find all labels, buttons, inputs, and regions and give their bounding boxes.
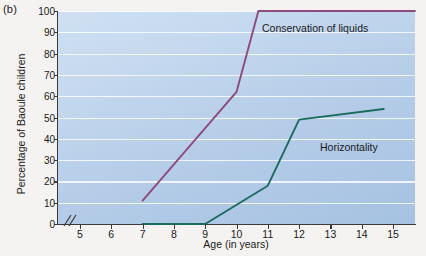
gridline xyxy=(58,54,415,55)
gridline xyxy=(58,75,415,76)
x-tick-label: 13 xyxy=(318,228,342,240)
x-tick-mark xyxy=(80,224,81,229)
x-tick-label: 6 xyxy=(99,228,123,240)
y-tick-mark xyxy=(54,139,58,140)
gridline xyxy=(58,11,415,12)
gridline xyxy=(58,139,415,140)
y-tick-mark xyxy=(54,75,58,76)
x-tick-mark xyxy=(330,224,331,229)
x-tick-mark xyxy=(174,224,175,229)
x-tick-label: 5 xyxy=(68,228,92,240)
x-tick-label: 12 xyxy=(287,228,311,240)
figure-panel: (b) Percentage of Baoule children Age (i… xyxy=(0,0,426,256)
y-tick-label: 50 xyxy=(15,112,55,123)
gridline xyxy=(58,181,415,182)
x-tick-mark xyxy=(237,224,238,229)
y-tick-mark xyxy=(54,181,58,182)
x-tick-label: 7 xyxy=(131,228,155,240)
series-label-horizontality: Horizontality xyxy=(320,141,378,153)
y-tick-mark xyxy=(54,54,58,55)
y-tick-label: 40 xyxy=(15,133,55,144)
axis-break-icon xyxy=(62,214,80,228)
x-tick-label: 11 xyxy=(256,228,280,240)
x-tick-mark xyxy=(205,224,206,229)
y-tick-label: 80 xyxy=(15,48,55,59)
x-tick-label: 10 xyxy=(225,228,249,240)
x-tick-label: 9 xyxy=(193,228,217,240)
y-tick-mark xyxy=(54,11,58,12)
y-tick-label: 90 xyxy=(15,27,55,38)
x-tick-mark xyxy=(143,224,144,229)
y-tick-label: 70 xyxy=(15,69,55,80)
y-tick-label: 10 xyxy=(15,197,55,208)
y-tick-label: 20 xyxy=(15,176,55,187)
y-tick-mark xyxy=(54,203,58,204)
x-tick-mark xyxy=(299,224,300,229)
y-tick-label: 100 xyxy=(15,6,55,17)
x-tick-mark xyxy=(111,224,112,229)
series-label-conservation-of-liquids: Conservation of liquids xyxy=(262,22,368,34)
gridline xyxy=(58,203,415,204)
y-tick-label: 60 xyxy=(15,91,55,102)
y-tick-mark xyxy=(54,96,58,97)
x-tick-mark xyxy=(268,224,269,229)
x-tick-mark xyxy=(393,224,394,229)
plot-area xyxy=(58,11,415,224)
x-tick-label: 8 xyxy=(162,228,186,240)
x-tick-mark xyxy=(362,224,363,229)
y-tick-mark xyxy=(54,32,58,33)
y-tick-mark xyxy=(54,118,58,119)
y-tick-label: 0 xyxy=(15,219,55,230)
y-tick-label: 30 xyxy=(15,155,55,166)
x-tick-label: 14 xyxy=(350,228,374,240)
y-tick-mark xyxy=(54,224,58,225)
gridline xyxy=(58,118,415,119)
x-tick-label: 15 xyxy=(381,228,405,240)
y-tick-mark xyxy=(54,160,58,161)
gridline xyxy=(58,160,415,161)
gridline xyxy=(58,96,415,97)
